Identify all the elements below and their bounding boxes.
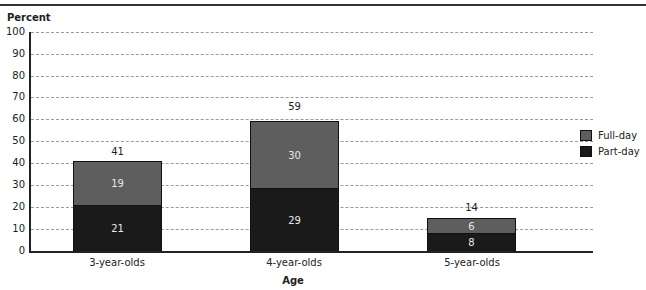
y-tick-60: 60 [0,114,25,124]
x-category-4-year-olds: 4-year-olds [234,257,354,268]
y-tick-50: 50 [0,136,25,146]
segment-full-day: 19 [74,162,161,205]
bar-total-5yr: 14 [427,202,516,213]
x-category-3-year-olds: 3-year-olds [57,257,177,268]
legend-label-full-day: Full-day [598,130,637,141]
x-axis [29,251,593,253]
x-axis-title: Age [0,275,616,286]
bar-total-3yr: 41 [73,146,162,157]
bar-4-year-olds: 30 29 [250,121,339,252]
gridline-60 [31,119,593,120]
gridline-80 [31,76,593,77]
bar-total-4yr: 59 [250,101,339,112]
gridline-100 [31,32,593,33]
segment-full-day: 30 [251,122,338,188]
y-tick-100: 100 [0,27,25,37]
segment-part-day: 8 [428,233,515,251]
x-category-5-year-olds: 5-year-olds [412,257,532,268]
y-tick-90: 90 [0,49,25,59]
chart-plot-area: 0 10 20 30 40 50 60 70 80 90 100 41 19 2… [0,0,646,290]
y-tick-80: 80 [0,71,25,81]
bar-3-year-olds: 19 21 [73,161,162,252]
y-tick-40: 40 [0,158,25,168]
y-tick-20: 20 [0,202,25,212]
y-axis [29,32,31,252]
y-tick-30: 30 [0,180,25,190]
legend-item-full-day: Full-day [580,127,640,143]
bar-5-year-olds: 6 8 [427,218,516,252]
legend-swatch-full-day [580,130,592,141]
legend-label-part-day: Part-day [598,146,640,157]
y-tick-70: 70 [0,92,25,102]
segment-full-day: 6 [428,219,515,233]
y-tick-10: 10 [0,224,25,234]
gridline-70 [31,97,593,98]
y-tick-0: 0 [0,246,25,256]
segment-part-day: 29 [251,188,338,251]
segment-part-day: 21 [74,205,161,251]
legend-swatch-part-day [580,146,592,157]
legend-item-part-day: Part-day [580,143,640,159]
legend: Full-day Part-day [580,127,640,159]
gridline-90 [31,54,593,55]
